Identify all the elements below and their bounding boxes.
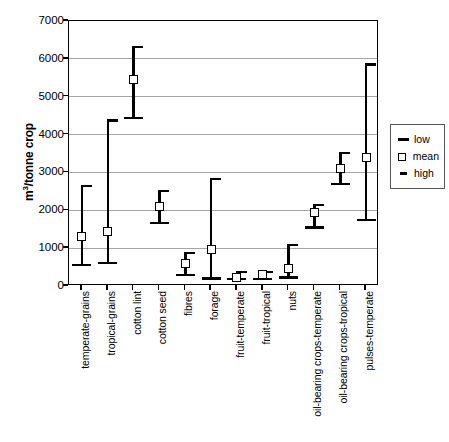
high-marker — [81, 185, 92, 187]
mean-marker — [310, 208, 319, 217]
gridline — [69, 210, 377, 211]
high-marker — [287, 244, 298, 246]
gridline — [69, 172, 377, 173]
low-marker — [305, 226, 324, 229]
legend-item-low: low — [396, 131, 439, 148]
range-stem — [365, 65, 368, 221]
mean-marker — [336, 164, 345, 173]
x-tick-label: fruit-temperate — [234, 291, 245, 358]
gridline — [69, 58, 377, 59]
low-marker — [202, 277, 221, 280]
high-marker — [184, 252, 195, 254]
y-axis-tick-labels: 01000200030004000500060007000 — [14, 20, 64, 285]
thin-dash-icon — [396, 172, 410, 174]
x-tick-mark — [209, 285, 211, 290]
x-tick-label: nuts — [286, 291, 297, 310]
x-tick-mark — [287, 285, 289, 290]
x-tick-label: cotton lint — [131, 291, 142, 335]
x-axis-category-labels: temperate-grainstropical-grainscotton li… — [68, 291, 378, 441]
range-stem — [107, 121, 110, 263]
mean-marker — [181, 259, 190, 268]
x-tick-label: pulses-temperate — [364, 291, 375, 371]
y-tick-label: 5000 — [20, 90, 64, 101]
low-marker — [150, 222, 169, 225]
plot-area — [68, 20, 378, 285]
x-tick-mark — [80, 285, 82, 290]
x-tick-mark — [132, 285, 134, 290]
x-tick-label: oil-bearing crops-temperate — [312, 291, 323, 417]
x-tick-mark — [106, 285, 108, 290]
low-marker — [176, 274, 195, 277]
high-marker — [313, 204, 324, 206]
x-tick-mark — [313, 285, 315, 290]
low-marker — [124, 117, 143, 120]
mean-marker — [284, 264, 293, 273]
high-marker — [132, 46, 143, 48]
x-tick-label: oil-bearing crops-tropical — [338, 291, 349, 403]
open-square-icon — [396, 153, 409, 161]
gridline — [69, 134, 377, 135]
thick-dash-icon — [396, 138, 410, 141]
y-tick-label: 3000 — [20, 166, 64, 177]
low-marker — [72, 264, 91, 267]
range-stem — [81, 186, 84, 265]
legend-item-mean: mean — [396, 148, 439, 165]
legend-label: low — [414, 134, 430, 145]
low-marker — [98, 262, 117, 265]
x-tick-mark — [158, 285, 160, 290]
chart-figure: m3/tonne crop 01000200030004000500060007… — [0, 0, 449, 442]
mean-marker — [258, 270, 267, 279]
mean-marker — [207, 245, 216, 254]
x-tick-label: tropical-grains — [105, 291, 116, 355]
x-tick-label: cotton seed — [157, 291, 168, 344]
gridline — [69, 96, 377, 97]
mean-marker — [103, 227, 112, 236]
low-marker — [331, 183, 350, 186]
high-marker — [107, 119, 118, 121]
mean-marker — [155, 202, 164, 211]
x-tick-label: temperate-grains — [79, 291, 90, 369]
x-tick-mark — [184, 285, 186, 290]
x-tick-mark — [364, 285, 366, 290]
mean-marker — [129, 75, 138, 84]
chart-legend: lowmeanhigh — [390, 124, 445, 189]
legend-item-high: high — [396, 165, 439, 182]
legend-label: high — [414, 168, 434, 179]
gridline — [69, 248, 377, 249]
x-tick-label: fibres — [183, 291, 194, 316]
y-tick-label: 0 — [20, 280, 64, 291]
x-tick-mark — [235, 285, 237, 290]
x-tick-label: forage — [209, 291, 220, 320]
range-stem — [210, 179, 213, 278]
x-tick-mark — [339, 285, 341, 290]
high-marker — [339, 152, 350, 154]
high-marker — [158, 190, 169, 192]
low-marker — [279, 276, 298, 279]
high-marker — [210, 178, 221, 180]
mean-marker — [77, 232, 86, 241]
x-tick-mark — [261, 285, 263, 290]
y-tick-label: 7000 — [20, 15, 64, 26]
y-tick-label: 1000 — [20, 242, 64, 253]
x-tick-label: fruit-tropical — [260, 291, 271, 344]
mean-marker — [362, 153, 371, 162]
y-tick-label: 6000 — [20, 52, 64, 63]
mean-marker — [232, 273, 241, 282]
y-tick-label: 4000 — [20, 128, 64, 139]
y-tick-label: 2000 — [20, 204, 64, 215]
high-marker — [365, 63, 376, 65]
low-marker — [357, 219, 376, 222]
legend-label: mean — [413, 151, 439, 162]
